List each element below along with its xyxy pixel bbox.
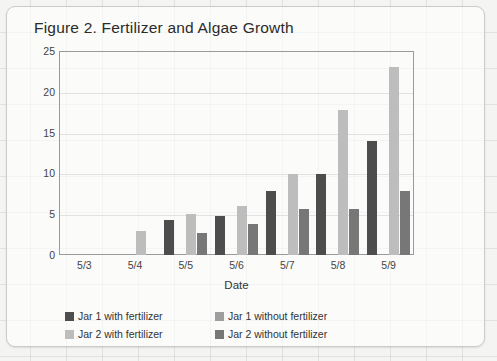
legend-swatch-icon (65, 312, 74, 321)
x-axis-tick: 5/4 (110, 259, 161, 271)
legend-item[interactable]: Jar 2 without fertilizer (215, 328, 395, 340)
bar-group (110, 51, 161, 255)
legend-item-label: Jar 1 without fertilizer (228, 310, 327, 322)
y-axis-tick: 10 (25, 167, 55, 179)
x-axis-tick: 5/6 (211, 259, 262, 271)
bar (338, 110, 348, 255)
x-axis-tick: 5/7 (262, 259, 313, 271)
bar (248, 224, 258, 255)
x-axis-tick: 5/8 (313, 259, 364, 271)
bar (367, 141, 377, 255)
bar (164, 220, 174, 255)
bar (136, 231, 146, 255)
legend-item[interactable]: Jar 1 with fertilizer (65, 310, 215, 322)
bar (266, 191, 276, 255)
x-axis-label: Date (59, 279, 414, 291)
y-axis-tick-labels: 0510152025 (21, 51, 55, 255)
chart-legend: Jar 1 with fertilizerJar 1 without ferti… (65, 307, 395, 343)
x-axis-tick: 5/9 (363, 259, 414, 271)
bar-group (313, 51, 364, 255)
y-axis-tick: 5 (25, 208, 55, 220)
legend-item-label: Jar 2 with fertilizer (78, 328, 163, 340)
bar-groups (59, 51, 414, 255)
bar (299, 209, 309, 256)
bar (349, 209, 359, 256)
x-axis-tick: 5/5 (160, 259, 211, 271)
x-axis-tick-labels: 5/35/45/55/65/75/85/9 (59, 259, 414, 271)
y-axis-tick: 20 (25, 86, 55, 98)
chart-title: Figure 2. Fertilizer and Algae Growth (34, 19, 294, 37)
bar (197, 233, 207, 255)
bar-group (262, 51, 313, 255)
legend-item-label: Jar 1 with fertilizer (78, 310, 163, 322)
legend-swatch-icon (215, 330, 224, 339)
bar (215, 216, 225, 255)
y-axis-tick: 25 (25, 45, 55, 57)
legend-item-label: Jar 2 without fertilizer (228, 328, 327, 340)
y-axis-tick: 0 (25, 249, 55, 261)
bar (316, 174, 326, 255)
bar (400, 191, 410, 255)
legend-swatch-icon (65, 330, 74, 339)
bar-group (59, 51, 110, 255)
bar (288, 174, 298, 255)
bar (186, 214, 196, 255)
chart-card: Figure 2. Fertilizer and Algae Growth Di… (6, 6, 485, 347)
y-axis-tick: 15 (25, 127, 55, 139)
x-axis-tick: 5/3 (59, 259, 110, 271)
bar-group (160, 51, 211, 255)
bar-group (363, 51, 414, 255)
legend-swatch-icon (215, 312, 224, 321)
bar (237, 206, 247, 255)
bar-group (211, 51, 262, 255)
legend-item[interactable]: Jar 2 with fertilizer (65, 328, 215, 340)
legend-item[interactable]: Jar 1 without fertilizer (215, 310, 395, 322)
bar (389, 67, 399, 255)
